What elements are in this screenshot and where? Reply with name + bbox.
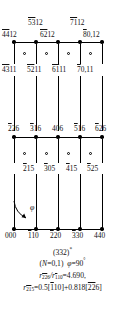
caption-line-plane: (332)* — [0, 248, 125, 257]
label-440-rest: 440 — [94, 231, 105, 240]
ring-top-2 — [45, 52, 48, 55]
label-5312-rest: 12 — [35, 18, 42, 27]
label-220: 220 — [50, 232, 61, 240]
crystallographic-net-figure: 5312 7112 4412 6212 80,12 4311 5211 6111… — [0, 0, 125, 313]
label-6212: 6212 — [40, 31, 55, 39]
label-4311-rest: 11 — [9, 65, 16, 74]
phi-angle-label: φ — [30, 203, 34, 212]
caption-line-ratio: r226/r110=4.690, — [0, 271, 125, 280]
label-220-rest: 20 — [54, 231, 61, 240]
caption-plane-index: (332) — [53, 248, 69, 257]
label-8012: 80,12 — [83, 31, 100, 39]
tick-mid-4 — [80, 139, 81, 163]
label-7011-rest: 0,11 — [81, 65, 94, 74]
label-525-rest: 25 — [91, 164, 98, 173]
ring-mid-3 — [67, 152, 70, 155]
ring-mid-2 — [45, 152, 48, 155]
tick-top-5 — [102, 44, 103, 64]
label-525: 525 — [87, 165, 98, 173]
label-6111-rest: 11 — [59, 65, 66, 74]
label-226: 226 — [8, 125, 19, 133]
label-7112-rest: 12 — [77, 18, 84, 27]
caption-r-sub-215: 215 — [26, 286, 34, 292]
vline-left-2 — [36, 76, 37, 131]
caption-r-sub-226: 226 — [42, 274, 50, 280]
tick-mid-2 — [36, 139, 37, 163]
label-5312: 5312 — [28, 19, 43, 27]
caption-phi-value: =90 — [71, 259, 83, 268]
label-516-rest: 16 — [78, 124, 85, 133]
vline-bottom-3 — [58, 174, 59, 229]
vline-left-3 — [58, 76, 59, 131]
tick-mid-1 — [14, 139, 15, 163]
tick-top-4 — [80, 44, 81, 64]
tick-mid-5 — [102, 139, 103, 163]
caption-vector-end: ] — [99, 283, 102, 292]
vline-bottom-5 — [102, 174, 103, 229]
vline-left-4 — [80, 76, 81, 131]
ring-top-3 — [67, 52, 70, 55]
vline-bottom-4 — [80, 174, 81, 229]
tick-top-3 — [58, 44, 59, 64]
label-406: 406 — [52, 125, 63, 133]
label-330-rest: 30 — [76, 231, 83, 240]
label-5211-rest: 11 — [34, 65, 41, 74]
label-7112: 7112 — [70, 19, 85, 27]
label-440: 440 — [94, 232, 105, 240]
vline-left-5 — [102, 76, 103, 131]
tick-top-2 — [36, 44, 37, 64]
label-516: 516 — [74, 125, 85, 133]
caption-line-vector: r215=0.5[110]+0.818[226] — [0, 283, 125, 292]
label-215: 215 — [23, 165, 34, 173]
label-415-rest: 15 — [70, 164, 77, 173]
caption-plane-asterisk: * — [69, 246, 72, 252]
label-7011: 70,11 — [77, 66, 93, 74]
label-000-rest: 000 — [5, 231, 16, 240]
caption-n-value: =0,1) — [47, 259, 63, 268]
label-626-rest: 26 — [99, 124, 106, 133]
caption-degree-sign: ° — [83, 257, 85, 263]
label-110: 110 — [28, 232, 39, 240]
ring-mid-4 — [89, 152, 92, 155]
label-000: 000 — [5, 232, 16, 240]
caption-vector-eq: =0.5[ — [34, 283, 50, 292]
ring-top-1 — [23, 52, 26, 55]
label-406-rest: 406 — [52, 124, 63, 133]
tick-top-1 — [14, 44, 15, 64]
tick-mid-3 — [58, 139, 59, 163]
caption-ratio-value: =4.690, — [63, 271, 86, 280]
label-316-rest: 16 — [34, 124, 41, 133]
label-4412-rest: 12 — [9, 30, 16, 39]
label-305-rest: 05 — [48, 164, 55, 173]
caption-line-n-phi: (N=0,1) φ=90° — [0, 259, 125, 268]
vline-left-1 — [14, 76, 15, 131]
label-4412: 4412 — [2, 31, 17, 39]
label-6111: 6111 — [52, 66, 66, 74]
label-8012-rest: 0,12 — [87, 30, 100, 39]
label-305: 305 — [44, 165, 55, 173]
ring-top-4 — [89, 52, 92, 55]
label-626: 626 — [95, 125, 106, 133]
label-215-rest: 15 — [27, 164, 34, 173]
label-226-rest: 26 — [12, 124, 19, 133]
caption-vector-mid: ]+0.818[ — [61, 283, 87, 292]
label-110-rest: 10 — [31, 231, 38, 240]
ring-mid-1 — [23, 152, 26, 155]
label-415: 415 — [66, 165, 77, 173]
label-4311: 4311 — [2, 66, 17, 74]
caption-r-sub-110: 110 — [55, 274, 63, 280]
label-5211: 5211 — [27, 66, 42, 74]
label-6212-rest: 12 — [47, 30, 54, 39]
label-330: 330 — [72, 232, 83, 240]
label-316: 316 — [30, 125, 41, 133]
